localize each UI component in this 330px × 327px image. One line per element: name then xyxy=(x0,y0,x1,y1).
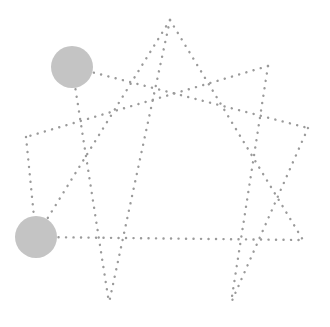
line-top-bottom-left xyxy=(109,20,170,303)
line-rightmid-bottomright xyxy=(231,128,308,303)
line-upperright-bottomright xyxy=(231,66,268,303)
enneagram-diagram xyxy=(0,0,330,327)
line-top-bottom-right xyxy=(170,20,303,240)
line-left-top xyxy=(36,20,170,237)
line-circle-bottomleft xyxy=(72,67,109,303)
line-left-right xyxy=(36,237,303,240)
upper-left-node xyxy=(51,46,93,88)
line-circle-rightmid xyxy=(72,67,308,128)
lower-left-node xyxy=(15,216,57,258)
